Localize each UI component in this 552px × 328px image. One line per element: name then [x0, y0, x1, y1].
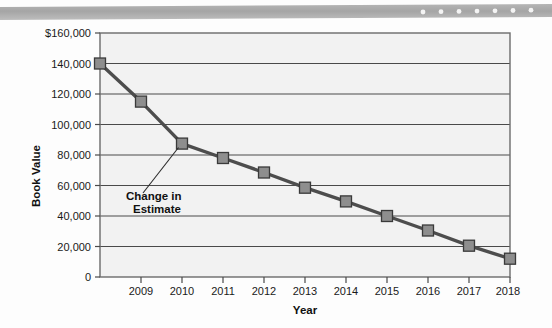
x-tick-label-2016: 2016	[416, 285, 440, 297]
y-tick-label-140000: 140,000	[51, 58, 91, 70]
data-point-2013	[300, 182, 311, 193]
data-point-2009	[136, 96, 147, 107]
y-axis-title: Book Value	[30, 145, 42, 207]
x-tick-label-2011: 2011	[211, 285, 235, 297]
data-point-2017	[464, 240, 475, 251]
annotation-label-line2: Estimate	[133, 203, 181, 215]
x-axis-ticks	[141, 277, 510, 283]
y-tick-label-160000: $160,000	[45, 27, 91, 39]
data-point-2008	[95, 58, 106, 69]
data-point-2016	[423, 225, 434, 236]
x-tick-label-2013: 2013	[293, 285, 317, 297]
figure-container: $160,000 140,000 120,000 100,000 80,000 …	[0, 0, 552, 328]
y-tick-label-20000: 20,000	[57, 241, 91, 253]
data-point-2011	[218, 153, 229, 164]
y-tick-label-60000: 60,000	[57, 180, 91, 192]
data-point-2018	[505, 253, 516, 264]
x-tick-label-2018: 2018	[496, 285, 520, 297]
x-tick-label-2014: 2014	[334, 285, 358, 297]
x-axis-title: Year	[293, 304, 318, 316]
y-tick-label-0: 0	[85, 271, 91, 283]
x-tick-label-2017: 2017	[457, 285, 481, 297]
x-tick-label-2010: 2010	[170, 285, 194, 297]
y-tick-label-40000: 40,000	[57, 210, 91, 222]
x-tick-label-2009: 2009	[129, 285, 153, 297]
y-tick-label-100000: 100,000	[51, 119, 91, 131]
x-axis-tick-labels: 2009 2010 2011 2012 2013 2014 2015 2016 …	[129, 285, 520, 297]
data-point-2014	[341, 196, 352, 207]
y-tick-label-80000: 80,000	[57, 149, 91, 161]
y-tick-label-120000: 120,000	[51, 88, 91, 100]
data-point-2015	[382, 211, 393, 222]
y-axis-tick-labels: $160,000 140,000 120,000 100,000 80,000 …	[45, 27, 91, 283]
data-point-2012	[259, 167, 270, 178]
x-tick-label-2015: 2015	[375, 285, 399, 297]
line-chart: $160,000 140,000 120,000 100,000 80,000 …	[0, 0, 552, 328]
x-tick-label-2012: 2012	[252, 285, 276, 297]
annotation-label-line1: Change in	[126, 190, 182, 202]
